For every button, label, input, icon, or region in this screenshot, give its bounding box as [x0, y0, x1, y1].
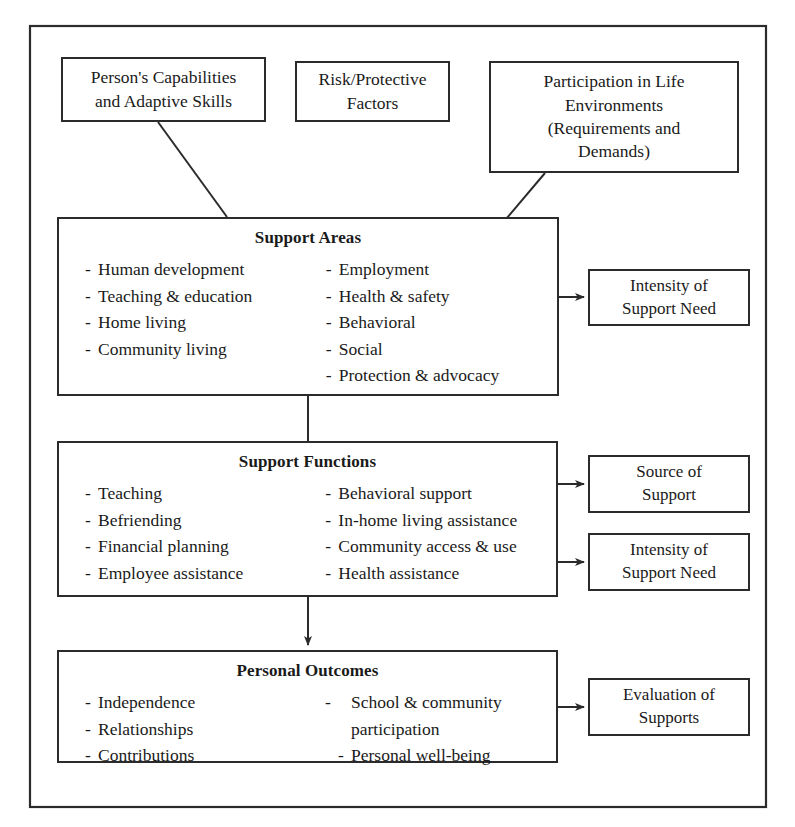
risk-protective-line-2: Factors — [347, 92, 399, 115]
list-item: -Independence — [85, 689, 338, 716]
list-item: -Home living — [85, 309, 326, 336]
list-item: -Relationships — [85, 716, 338, 743]
box-risk-protective-factors[interactable]: Risk/Protective Factors — [295, 61, 450, 122]
list-item: -Community access & use — [325, 533, 556, 560]
support-areas-left-column: -Human development -Teaching & education… — [59, 256, 326, 389]
box-support-functions[interactable]: Support Functions -Teaching -Befriending… — [57, 441, 558, 597]
intensity-areas-line-1: Intensity of — [630, 275, 708, 298]
intensity-areas-line-2: Support Need — [622, 298, 716, 321]
box-evaluation-of-supports[interactable]: Evaluation of Supports — [588, 678, 750, 736]
intensity-functions-line-1: Intensity of — [630, 539, 708, 562]
box-personal-outcomes[interactable]: Personal Outcomes -Independence -Relatio… — [57, 650, 558, 763]
list-item: -Health & safety — [326, 283, 557, 310]
list-item: -Health assistance — [325, 560, 556, 587]
list-item: -Teaching & education — [85, 283, 326, 310]
support-areas-heading: Support Areas — [59, 228, 557, 248]
source-of-support-line-2: Support — [642, 484, 696, 507]
list-item: -Befriending — [85, 507, 325, 534]
connector-participation-to-areas — [507, 173, 545, 218]
list-item: -Protection & advocacy — [326, 362, 557, 389]
participation-line-3: (Requirements and — [548, 117, 681, 140]
list-item: -Teaching — [85, 480, 325, 507]
participation-line-1: Participation in Life — [544, 70, 685, 93]
box-intensity-of-support-need-functions[interactable]: Intensity of Support Need — [588, 533, 750, 591]
intensity-functions-line-2: Support Need — [622, 562, 716, 585]
list-item: -School & community participation — [338, 689, 553, 742]
list-item: -Community living — [85, 336, 326, 363]
list-item: -Behavioral — [326, 309, 557, 336]
support-functions-left-column: -Teaching -Befriending -Financial planni… — [59, 480, 325, 586]
personal-outcomes-left-column: -Independence -Relationships -Contributi… — [59, 689, 338, 769]
support-functions-heading: Support Functions — [59, 452, 556, 472]
list-item: -Human development — [85, 256, 326, 283]
box-source-of-support[interactable]: Source of Support — [588, 455, 750, 513]
participation-line-2: Environments — [565, 94, 663, 117]
list-item: -Behavioral support — [325, 480, 556, 507]
support-areas-right-column: -Employment -Health & safety -Behavioral… — [326, 256, 557, 389]
risk-protective-line-1: Risk/Protective — [319, 68, 427, 91]
box-participation-life-environments[interactable]: Participation in Life Environments (Requ… — [489, 61, 739, 173]
list-item: -Contributions — [85, 742, 338, 769]
list-item: -Personal well-being — [338, 742, 553, 769]
list-item: -Financial planning — [85, 533, 325, 560]
participation-line-4: Demands) — [578, 140, 650, 163]
diagram-canvas: Person's Capabilities and Adaptive Skill… — [0, 0, 795, 827]
connector-capabilities-to-areas — [158, 122, 227, 217]
evaluation-of-supports-line-2: Supports — [639, 707, 699, 730]
persons-capabilities-line-2: and Adaptive Skills — [95, 90, 232, 113]
personal-outcomes-right-column: -School & community participation -Perso… — [338, 689, 553, 769]
list-item: -Employee assistance — [85, 560, 325, 587]
list-item: -Social — [326, 336, 557, 363]
box-persons-capabilities[interactable]: Person's Capabilities and Adaptive Skill… — [61, 57, 266, 122]
source-of-support-line-1: Source of — [636, 461, 702, 484]
box-support-areas[interactable]: Support Areas -Human development -Teachi… — [57, 217, 559, 396]
box-intensity-of-support-need-areas[interactable]: Intensity of Support Need — [588, 269, 750, 326]
personal-outcomes-heading: Personal Outcomes — [59, 661, 556, 681]
list-item: -In-home living assistance — [325, 507, 556, 534]
support-functions-right-column: -Behavioral support -In-home living assi… — [325, 480, 556, 586]
evaluation-of-supports-line-1: Evaluation of — [623, 684, 715, 707]
persons-capabilities-line-1: Person's Capabilities — [91, 66, 237, 89]
list-item: -Employment — [326, 256, 557, 283]
